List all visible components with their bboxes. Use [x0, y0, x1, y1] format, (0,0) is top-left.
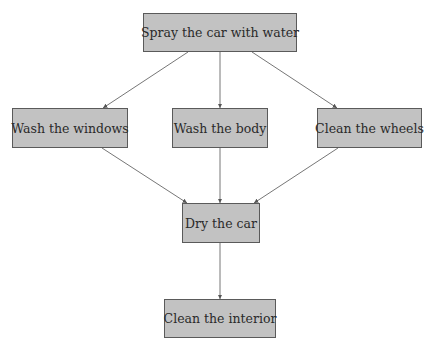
node-body: Wash the body [172, 108, 268, 148]
node-label: Clean the interior [164, 311, 277, 326]
node-label: Wash the windows [11, 121, 129, 136]
node-label: Dry the car [185, 216, 257, 231]
node-label: Wash the body [174, 121, 267, 136]
node-windows: Wash the windows [12, 108, 128, 148]
edge-spray-windows [103, 52, 188, 108]
edge-spray-wheels [252, 52, 337, 108]
node-interior: Clean the interior [164, 299, 276, 338]
node-wheels: Clean the wheels [317, 108, 422, 148]
node-dry: Dry the car [182, 203, 260, 243]
node-label: Clean the wheels [315, 121, 424, 136]
edge-wheels-dry [254, 148, 338, 203]
edge-windows-dry [102, 148, 187, 203]
node-label: Spray the car with water [141, 25, 299, 40]
node-spray: Spray the car with water [143, 13, 297, 52]
